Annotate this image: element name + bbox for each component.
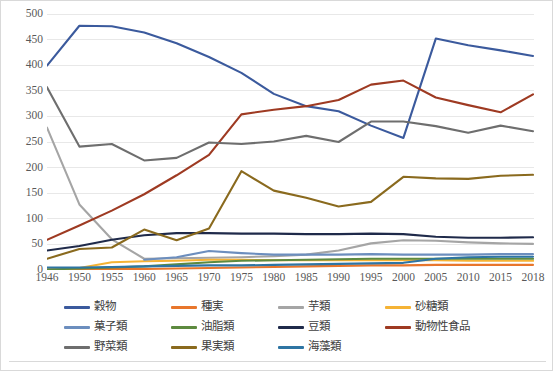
legend-label: 豆類 xyxy=(308,321,330,333)
legend-item-動物性食品[interactable]: 動物性食品 xyxy=(385,321,492,333)
x-tick-label: 2018 xyxy=(522,272,545,284)
legend-swatch-icon xyxy=(171,326,197,329)
y-tick-label: 450 xyxy=(3,34,43,46)
legend-swatch-icon xyxy=(64,326,90,329)
series-line xyxy=(47,87,533,160)
x-tick-label: 2015 xyxy=(489,272,512,284)
legend-item-油脂類[interactable]: 油脂類 xyxy=(171,321,278,333)
x-tick-label: 1950 xyxy=(68,272,91,284)
legend-label: 動物性食品 xyxy=(415,321,470,333)
y-tick-label: 400 xyxy=(3,59,43,71)
footer-divider xyxy=(9,361,546,362)
x-tick-label: 2010 xyxy=(457,272,480,284)
legend-label: 油脂類 xyxy=(201,321,234,333)
legend-item-砂糖類[interactable]: 砂糖類 xyxy=(385,301,492,313)
y-tick-label: 500 xyxy=(3,8,43,20)
series-lines xyxy=(47,26,533,270)
legend-label: 菓子類 xyxy=(94,321,127,333)
x-tick-label: 1985 xyxy=(295,272,318,284)
y-tick-label: 200 xyxy=(3,162,43,174)
plot-svg xyxy=(47,14,534,270)
legend-item-果実類[interactable]: 果実類 xyxy=(171,341,278,353)
chart-legend: 穀物種実芋類砂糖類菓子類油脂類豆類動物性食品野菜類果実類海藻類 xyxy=(1,297,553,359)
x-tick-label: 1990 xyxy=(327,272,350,284)
x-tick-label: 1955 xyxy=(100,272,123,284)
legend-swatch-icon xyxy=(278,346,304,349)
gridlines xyxy=(47,14,534,270)
y-tick-label: 300 xyxy=(3,111,43,123)
x-tick-label: 2005 xyxy=(424,272,447,284)
x-tick-label: 1946 xyxy=(36,272,59,284)
y-tick-label: 50 xyxy=(3,239,43,251)
legend-item-豆類[interactable]: 豆類 xyxy=(278,321,385,333)
x-tick-label: 1975 xyxy=(230,272,253,284)
legend-item-芋類[interactable]: 芋類 xyxy=(278,301,385,313)
legend-label: 砂糖類 xyxy=(415,301,448,313)
y-tick-label: 350 xyxy=(3,85,43,97)
legend-item-菓子類[interactable]: 菓子類 xyxy=(64,321,171,333)
y-tick-label: 150 xyxy=(3,187,43,199)
legend-row: 穀物種実芋類砂糖類 xyxy=(1,297,553,317)
x-tick-label: 1995 xyxy=(360,272,383,284)
legend-item-野菜類[interactable]: 野菜類 xyxy=(64,341,171,353)
legend-swatch-icon xyxy=(171,346,197,349)
x-tick-label: 2000 xyxy=(392,272,415,284)
legend-item-穀物[interactable]: 穀物 xyxy=(64,301,171,313)
legend-label: 種実 xyxy=(201,301,223,313)
x-axis: 1946195019551960196519701975198019851990… xyxy=(47,272,534,288)
x-tick-label: 1965 xyxy=(165,272,188,284)
series-line xyxy=(47,81,533,240)
legend-label: 穀物 xyxy=(94,301,116,313)
legend-swatch-icon xyxy=(171,306,197,309)
legend-swatch-icon xyxy=(64,346,90,349)
legend-swatch-icon xyxy=(278,326,304,329)
legend-label: 果実類 xyxy=(201,341,234,353)
legend-label: 野菜類 xyxy=(94,341,127,353)
series-line xyxy=(47,171,533,259)
legend-item-海藻類[interactable]: 海藻類 xyxy=(278,341,385,353)
legend-label: 海藻類 xyxy=(308,341,341,353)
legend-swatch-icon xyxy=(385,306,411,309)
legend-row: 野菜類果実類海藻類 xyxy=(1,337,553,357)
legend-label: 芋類 xyxy=(308,301,330,313)
legend-swatch-icon xyxy=(385,326,411,329)
legend-swatch-icon xyxy=(278,306,304,309)
plot-area xyxy=(47,14,534,270)
legend-item-種実[interactable]: 種実 xyxy=(171,301,278,313)
legend-swatch-icon xyxy=(64,306,90,309)
x-tick-label: 1980 xyxy=(262,272,285,284)
series-line xyxy=(47,26,533,138)
line-chart-card: 050100150200250300350400450500 194619501… xyxy=(0,0,553,371)
legend-row: 菓子類油脂類豆類動物性食品 xyxy=(1,317,553,337)
y-tick-label: 100 xyxy=(3,213,43,225)
x-tick-label: 1970 xyxy=(198,272,221,284)
y-axis: 050100150200250300350400450500 xyxy=(1,14,43,270)
y-tick-label: 250 xyxy=(3,136,43,148)
x-tick-label: 1960 xyxy=(133,272,156,284)
